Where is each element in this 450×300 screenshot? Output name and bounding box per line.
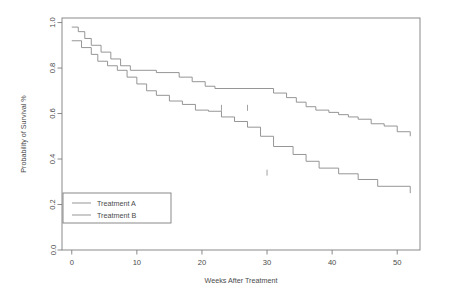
- x-axis-title: Weeks After Treatment: [205, 276, 278, 285]
- series-layer: [72, 27, 410, 193]
- survival-curve-treatment-b: [72, 41, 410, 193]
- y-axis: 0.00.20.40.60.81.0: [49, 17, 63, 255]
- y-tick-label: 0.8: [49, 63, 58, 74]
- legend-label-treatment-a: Treatment A: [97, 199, 136, 208]
- x-tick-label: 50: [393, 258, 401, 267]
- survival-curve-treatment-a: [72, 27, 410, 136]
- x-tick-label: 40: [328, 258, 336, 267]
- legend-label-treatment-b: Treatment B: [97, 211, 136, 220]
- x-tick-label: 0: [70, 258, 74, 267]
- y-tick-label: 0.2: [49, 199, 58, 210]
- x-tick-label: 20: [198, 258, 206, 267]
- y-tick-label: 0.6: [49, 108, 58, 119]
- chart-legend: Treatment ATreatment B: [63, 193, 171, 223]
- censor-marks-layer: [221, 105, 267, 176]
- y-axis-title: Probability of Survival %: [19, 95, 28, 173]
- x-tick-label: 10: [133, 258, 141, 267]
- y-tick-label: 0.4: [49, 154, 58, 165]
- y-tick-label: 1.0: [49, 17, 58, 28]
- x-axis: 01020304050: [70, 250, 402, 267]
- survival-chart-figure: 01020304050 0.00.20.40.60.81.0 Weeks Aft…: [0, 0, 450, 300]
- plot-canvas: 01020304050 0.00.20.40.60.81.0 Weeks Aft…: [0, 0, 450, 300]
- y-tick-label: 0.0: [49, 245, 58, 256]
- x-tick-label: 30: [263, 258, 271, 267]
